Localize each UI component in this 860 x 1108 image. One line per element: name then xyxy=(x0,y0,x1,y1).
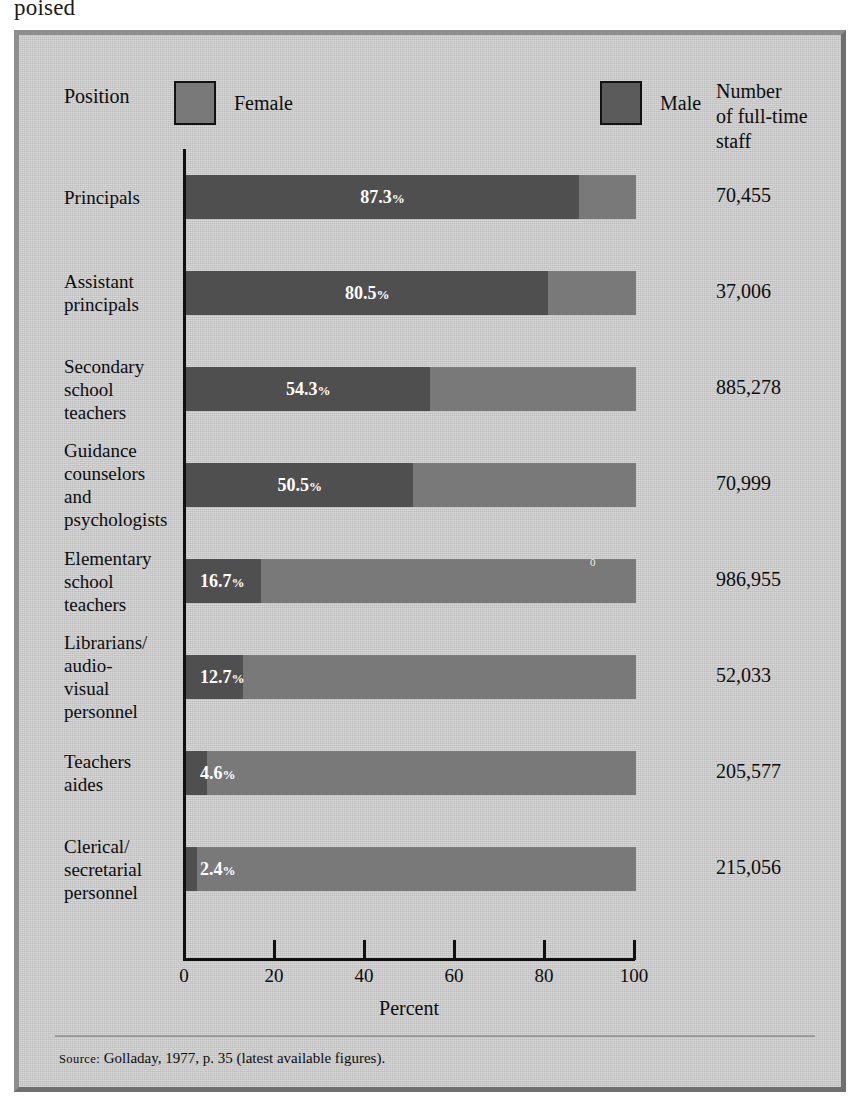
bar-percent-label: 2.4% xyxy=(200,859,236,880)
chart-row: Elementaryschoolteachers16.7%0986,955 xyxy=(19,533,851,629)
row-label: Guidancecounselorsandpsychologists xyxy=(64,439,184,531)
chart-row: Secondaryschoolteachers54.3%885,278 xyxy=(19,341,851,437)
chart-row: Assistantprincipals80.5%37,006 xyxy=(19,245,851,341)
source-text: Golladay, 1977, p. 35 (latest available … xyxy=(104,1050,385,1066)
row-label: Clerical/secretarialpersonnel xyxy=(64,835,184,904)
x-axis-tick xyxy=(273,940,276,960)
row-label-line: personnel xyxy=(64,881,184,904)
x-axis-title: Percent xyxy=(379,997,439,1020)
row-count-value: 52,033 xyxy=(716,664,771,687)
source-separator: : xyxy=(96,1052,100,1066)
x-axis-tick xyxy=(633,940,636,960)
bar-female-segment: 50.5% xyxy=(186,463,636,507)
row-label-line: Principals xyxy=(64,186,184,209)
row-count-value: 986,955 xyxy=(716,568,781,591)
chart-row: Teachersaides4.6%205,577 xyxy=(19,725,851,821)
x-axis-tick-label: 0 xyxy=(179,965,189,987)
x-axis-tick xyxy=(363,940,366,960)
bar-female-segment: 16.7%0 xyxy=(186,559,636,603)
bar-female-segment: 2.4% xyxy=(186,847,636,891)
row-label-line: personnel xyxy=(64,700,184,723)
bar-percent-label: 80.5% xyxy=(345,283,390,304)
row-label-line: principals xyxy=(64,293,184,316)
page-tail-text: poised xyxy=(14,0,75,22)
row-label-line: and xyxy=(64,485,184,508)
bar-female-segment: 54.3% xyxy=(186,367,636,411)
x-axis-tick xyxy=(183,940,186,960)
source-prefix: Source xyxy=(59,1052,96,1066)
row-label: Teachersaides xyxy=(64,750,184,796)
x-axis-tick-label: 20 xyxy=(265,965,284,987)
row-label: Assistantprincipals xyxy=(64,270,184,316)
row-label-line: Secondary xyxy=(64,355,184,378)
bar-female-segment: 87.3% xyxy=(186,175,636,219)
x-axis-tick-label: 80 xyxy=(535,965,554,987)
row-label-line: visual xyxy=(64,677,184,700)
row-label-line: Guidance xyxy=(64,439,184,462)
row-label: Elementaryschoolteachers xyxy=(64,547,184,616)
row-label: Principals xyxy=(64,186,184,209)
x-axis-line xyxy=(183,958,635,961)
row-label-line: counselors xyxy=(64,462,184,485)
row-count-value: 37,006 xyxy=(716,280,771,303)
row-label-line: Assistant xyxy=(64,270,184,293)
row-label-line: Librarians/ xyxy=(64,631,184,654)
figure-frame: Position Female Male Number of full-time… xyxy=(14,30,846,1092)
chart-row: Clerical/secretarialpersonnel2.4%215,056 xyxy=(19,821,851,917)
row-label: Librarians/audio-visualpersonnel xyxy=(64,631,184,723)
source-divider xyxy=(55,1035,815,1037)
row-label-line: psychologists xyxy=(64,508,184,531)
bar-percent-label: 54.3% xyxy=(286,379,331,400)
row-label-line: teachers xyxy=(64,593,184,616)
chart-row: Librarians/audio-visualpersonnel12.7%52,… xyxy=(19,629,851,725)
row-label: Secondaryschoolteachers xyxy=(64,355,184,424)
row-count-value: 885,278 xyxy=(716,376,781,399)
stray-zero-artifact: 0 xyxy=(590,556,596,568)
bar-percent-label: 16.7% xyxy=(200,571,245,592)
bar-female-segment: 80.5% xyxy=(186,271,636,315)
row-label-line: Clerical/ xyxy=(64,835,184,858)
x-axis-tick xyxy=(453,940,456,960)
chart-plot-area: Principals87.3%70,455Assistantprincipals… xyxy=(19,35,851,1097)
row-label-line: school xyxy=(64,570,184,593)
x-axis-tick-label: 40 xyxy=(355,965,374,987)
row-label-line: Teachers xyxy=(64,750,184,773)
row-label-line: Elementary xyxy=(64,547,184,570)
bar-percent-label: 12.7% xyxy=(200,667,245,688)
bar-male-segment xyxy=(186,847,197,891)
row-label-line: aides xyxy=(64,773,184,796)
row-label-line: audio- xyxy=(64,654,184,677)
chart-row: Principals87.3%70,455 xyxy=(19,149,851,245)
row-count-value: 70,999 xyxy=(716,472,771,495)
chart-row: Guidancecounselorsandpsychologists50.5%7… xyxy=(19,437,851,533)
row-label-line: teachers xyxy=(64,401,184,424)
bar-female-segment: 12.7% xyxy=(186,655,636,699)
row-count-value: 205,577 xyxy=(716,760,781,783)
source-note: Source: Golladay, 1977, p. 35 (latest av… xyxy=(59,1050,385,1067)
x-axis-tick-label: 100 xyxy=(620,965,649,987)
x-axis-tick-label: 60 xyxy=(445,965,464,987)
x-axis-tick xyxy=(543,940,546,960)
row-label-line: school xyxy=(64,378,184,401)
row-count-value: 70,455 xyxy=(716,184,771,207)
bar-percent-label: 4.6% xyxy=(200,763,236,784)
bar-percent-label: 87.3% xyxy=(360,187,405,208)
row-count-value: 215,056 xyxy=(716,856,781,879)
row-label-line: secretarial xyxy=(64,858,184,881)
bar-percent-label: 50.5% xyxy=(277,475,322,496)
bar-female-segment: 4.6% xyxy=(186,751,636,795)
